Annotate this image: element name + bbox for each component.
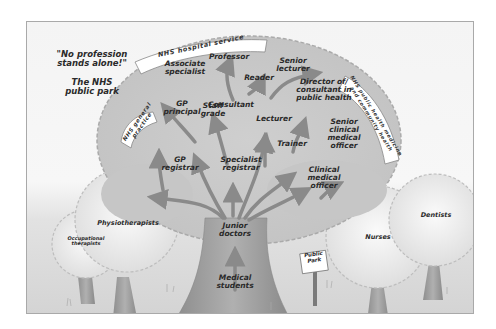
label-reader: Reader	[237, 74, 281, 82]
illustration-frame: "No profession stands alone!" The NHS pu…	[26, 21, 474, 314]
label-occupational-therapists: Occupational therapists	[55, 236, 117, 247]
label-dentists: Dentists	[407, 212, 465, 219]
label-lecturer: Lecturer	[249, 115, 299, 123]
label-nurses: Nurses	[351, 234, 405, 241]
title-quote: "No profession stands alone!"	[37, 50, 147, 68]
label-trainer: Trainer	[267, 140, 317, 148]
label-senior-clinical-medical-officer: Senior clinical medical officer	[321, 118, 367, 150]
label-director-public-health: Director of/ consultant in public health	[289, 78, 359, 102]
label-clinical-medical-officer: Clinical medical officer	[299, 166, 349, 190]
label-specialist-registrar: Specialist registrar	[209, 156, 273, 172]
label-junior-doctors: Junior doctors	[211, 222, 259, 238]
label-professor: Professor	[201, 53, 257, 61]
label-consultant: Consultant	[199, 101, 263, 109]
label-senior-lecturer: Senior lecturer	[265, 57, 321, 73]
label-associate-specialist: Associate specialist	[153, 60, 217, 76]
label-gp-registrar: GP registrar	[155, 156, 205, 172]
label-medical-students: Medical students	[211, 274, 259, 290]
park-subtitle: The NHS public park	[37, 78, 147, 96]
label-physiotherapists: Physiotherapists	[85, 220, 171, 227]
